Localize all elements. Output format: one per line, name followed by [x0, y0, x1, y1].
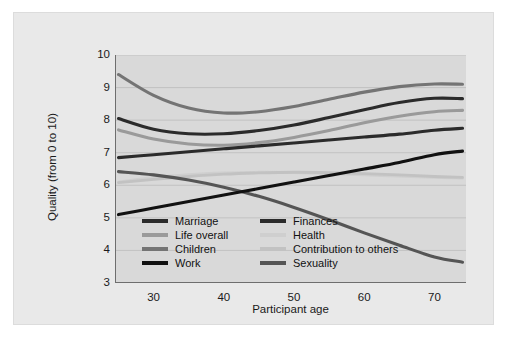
legend-entry-sexuality[interactable]: Sexuality: [260, 256, 432, 270]
y-tick-label-10: 10: [88, 49, 110, 61]
series-line-children: [119, 75, 463, 114]
legend-label: Sexuality: [293, 258, 338, 269]
legend-swatch-icon: [142, 261, 168, 265]
legend-entry-children[interactable]: Children: [142, 242, 260, 256]
figure-panel: Quality (from 0 to 10) 345678910 Marriag…: [13, 12, 494, 325]
series-line-life-overall: [119, 110, 463, 145]
figure-root: Quality (from 0 to 10) 345678910 Marriag…: [0, 0, 516, 342]
legend-label: Marriage: [175, 216, 218, 227]
legend-entry-finances[interactable]: Finances: [260, 214, 432, 228]
chart-legend: MarriageFinancesLife overallHealthChildr…: [142, 214, 432, 270]
y-tick-label-9: 9: [88, 82, 110, 94]
x-axis-title: Participant age: [115, 303, 466, 315]
legend-label: Contribution to others: [293, 244, 398, 255]
legend-label: Finances: [293, 216, 338, 227]
x-tick-label-40: 40: [217, 292, 230, 304]
x-tick-label-70: 70: [428, 292, 441, 304]
y-tick-label-4: 4: [88, 244, 110, 256]
x-tick-label-30: 30: [147, 292, 160, 304]
legend-label: Life overall: [175, 230, 228, 241]
legend-label: Children: [175, 244, 216, 255]
plot-area: MarriageFinancesLife overallHealthChildr…: [115, 55, 466, 283]
y-tick-label-7: 7: [88, 147, 110, 159]
legend-entry-life-overall[interactable]: Life overall: [142, 228, 260, 242]
y-axis-tick-labels: 345678910: [86, 55, 110, 283]
legend-swatch-icon: [142, 247, 168, 251]
y-axis-title: Quality (from 0 to 10): [46, 87, 58, 247]
y-tick-label-5: 5: [88, 212, 110, 224]
legend-label: Work: [175, 258, 200, 269]
legend-swatch-icon: [260, 233, 286, 237]
y-tick-label-3: 3: [88, 277, 110, 289]
legend-label: Health: [293, 230, 325, 241]
legend-swatch-icon: [260, 247, 286, 251]
legend-entry-contribution-to-others[interactable]: Contribution to others: [260, 242, 432, 256]
legend-swatch-icon: [260, 261, 286, 265]
x-tick-label-50: 50: [288, 292, 301, 304]
legend-swatch-icon: [142, 233, 168, 237]
legend-entry-work[interactable]: Work: [142, 256, 260, 270]
legend-entry-health[interactable]: Health: [260, 228, 432, 242]
y-tick-label-8: 8: [88, 114, 110, 126]
legend-entry-marriage[interactable]: Marriage: [142, 214, 260, 228]
legend-swatch-icon: [260, 219, 286, 223]
x-axis-tick-labels: 3040506070: [115, 287, 466, 303]
legend-swatch-icon: [142, 219, 168, 223]
x-tick-label-60: 60: [358, 292, 371, 304]
y-tick-label-6: 6: [88, 179, 110, 191]
